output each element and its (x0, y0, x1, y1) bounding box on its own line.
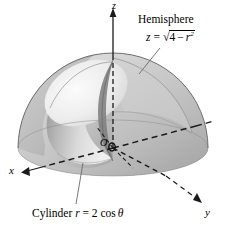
radicand-b-exponent: 2 (190, 30, 194, 38)
hemisphere-label: Hemisphere (138, 14, 194, 26)
cylinder-coefficient: 2 (92, 207, 98, 219)
equation-equals: = (153, 31, 160, 43)
cylinder-label: Cylinder r = 2 cosθ (32, 208, 123, 220)
radicand: 4−r2 (169, 30, 195, 43)
cylinder-variable: r (75, 207, 79, 219)
origin-label: O (100, 138, 107, 148)
radicand-minus: − (177, 31, 184, 43)
cylinder-equals: = (82, 207, 89, 219)
cylinder-angle: θ (118, 207, 124, 219)
x-axis-arrowhead (21, 167, 30, 176)
radicand-a: 4 (170, 31, 176, 43)
y-axis-label: y (205, 207, 210, 218)
x-axis-label: x (9, 165, 14, 176)
cylinder-function: cos (100, 207, 115, 219)
hemisphere-equation: z=√4−r2 (146, 31, 195, 44)
hemisphere-cylinder-figure: Hemisphere z=√4−r2 Cylinder r = 2 cosθ x… (0, 0, 226, 233)
cylinder-word: Cylinder (32, 207, 72, 219)
y-axis-arrowhead (193, 193, 202, 203)
equation-lhs: z (146, 31, 150, 43)
equation-radical-group: √4−r2 (163, 31, 195, 44)
z-axis-label: z (112, 1, 116, 11)
